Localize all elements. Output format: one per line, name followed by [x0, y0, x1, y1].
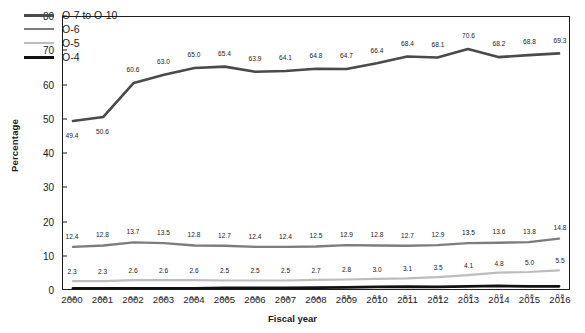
- legend-item-o-4[interactable]: O-4: [24, 50, 117, 64]
- y-axis-tick-mark: [62, 255, 67, 256]
- data-point-label: 3.5: [433, 264, 442, 271]
- data-point-label: 12.7: [218, 231, 231, 238]
- data-point-label: 2.6: [159, 267, 168, 274]
- y-axis-tick-label: 20: [43, 216, 54, 227]
- data-point-label: 2.5: [220, 267, 229, 274]
- data-point-label: 4.8: [494, 259, 503, 266]
- data-point-label: 0.2: [98, 294, 106, 301]
- x-axis-title: Fiscal year: [0, 313, 585, 324]
- data-point-label: 3.1: [403, 265, 412, 272]
- data-point-label: 0.8: [464, 292, 472, 299]
- series-line-o-4: [73, 286, 559, 288]
- data-point-label: 68.2: [493, 40, 506, 47]
- y-axis-tick-label: 10: [43, 250, 54, 261]
- y-axis-tick-mark: [62, 187, 67, 188]
- data-point-label: 12.8: [188, 231, 201, 238]
- y-axis-tick-mark: [62, 118, 67, 119]
- legend: O-7 to O-10O-6O-5O-4: [24, 8, 117, 64]
- data-point-label: 13.7: [127, 228, 140, 235]
- y-axis-tick-label: 0: [48, 285, 54, 296]
- data-point-label: 64.7: [340, 52, 353, 59]
- series-line-o-7-to-o-10: [73, 49, 559, 121]
- data-point-label: 60.6: [127, 66, 140, 73]
- data-point-label: 12.9: [432, 230, 445, 237]
- data-point-label: 2.7: [311, 266, 320, 273]
- data-point-label: 68.4: [401, 39, 414, 46]
- data-point-label: 0.9: [495, 291, 503, 298]
- data-point-label: 0.2: [129, 294, 137, 301]
- data-point-label: 5.0: [525, 258, 534, 265]
- data-point-label: 0.8: [556, 292, 564, 299]
- legend-item-o-6[interactable]: O-6: [24, 22, 117, 36]
- data-point-label: 12.5: [310, 232, 323, 239]
- y-axis-tick-label: 40: [43, 148, 54, 159]
- data-point-label: 2.3: [98, 268, 107, 275]
- data-point-label: 12.4: [66, 232, 79, 239]
- data-point-label: 0.2: [68, 294, 76, 301]
- data-point-label: 0.3: [281, 293, 289, 300]
- data-point-label: 12.9: [340, 230, 353, 237]
- data-point-label: 0.3: [220, 293, 228, 300]
- data-point-label: 50.6: [96, 127, 109, 134]
- y-axis-title: Percentage: [4, 0, 26, 290]
- data-point-label: 12.4: [279, 232, 292, 239]
- legend-swatch-icon: [24, 14, 54, 17]
- data-point-label: 3.0: [372, 265, 381, 272]
- legend-item-o-7-to-o-10[interactable]: O-7 to O-10: [24, 8, 117, 22]
- data-point-label: 14.8: [554, 224, 567, 231]
- legend-label: O-5: [62, 37, 80, 49]
- y-axis-tick-label: 60: [43, 79, 54, 90]
- y-axis-tick-mark: [62, 153, 67, 154]
- data-point-label: 12.8: [371, 231, 384, 238]
- legend-swatch-icon: [24, 42, 54, 44]
- data-point-label: 2.6: [189, 267, 198, 274]
- data-point-label: 0.6: [373, 292, 381, 299]
- data-point-label: 0.2: [190, 294, 198, 301]
- data-point-label: 70.6: [462, 32, 475, 39]
- data-point-label: 63.9: [249, 55, 262, 62]
- data-point-label: 0.4: [312, 293, 320, 300]
- data-point-label: 0.8: [525, 292, 533, 299]
- data-point-label: 13.5: [157, 228, 170, 235]
- data-point-label: 66.4: [371, 46, 384, 53]
- data-point-label: 12.4: [249, 232, 262, 239]
- data-point-label: 2.3: [67, 268, 76, 275]
- data-point-label: 12.7: [401, 231, 414, 238]
- data-point-label: 0.7: [403, 292, 411, 299]
- series-line-o-6: [73, 239, 559, 247]
- data-point-label: 2.5: [281, 267, 290, 274]
- data-point-label: 49.4: [66, 131, 79, 138]
- data-point-label: 13.6: [493, 228, 506, 235]
- y-axis-tick-label: 30: [43, 182, 54, 193]
- legend-label: O-6: [62, 23, 80, 35]
- data-point-label: 2.6: [128, 267, 137, 274]
- data-point-label: 12.8: [96, 231, 109, 238]
- data-point-label: 68.8: [523, 38, 536, 45]
- data-point-label: 0.2: [159, 294, 167, 301]
- legend-swatch-icon: [24, 28, 54, 30]
- legend-label: O-7 to O-10: [62, 9, 117, 21]
- data-point-label: 65.0: [188, 51, 201, 58]
- data-point-label: 13.5: [462, 228, 475, 235]
- y-axis-tick-label: 50: [43, 113, 54, 124]
- data-point-label: 4.1: [464, 261, 473, 268]
- legend-label: O-4: [62, 51, 80, 63]
- data-point-label: 68.1: [432, 40, 445, 47]
- data-point-label: 2.8: [342, 266, 351, 273]
- data-point-label: 13.8: [523, 227, 536, 234]
- legend-item-o-5[interactable]: O-5: [24, 36, 117, 50]
- y-axis-tick-mark: [62, 84, 67, 85]
- data-point-label: 0.3: [251, 293, 259, 300]
- data-point-label: 5.5: [555, 257, 564, 264]
- data-point-label: 63.0: [157, 58, 170, 65]
- legend-swatch-icon: [24, 56, 54, 59]
- data-point-label: 65.4: [218, 50, 231, 57]
- data-point-label: 64.1: [279, 54, 292, 61]
- data-point-label: 69.3: [554, 36, 567, 43]
- data-point-label: 0.5: [342, 293, 350, 300]
- y-axis-tick-mark: [62, 221, 67, 222]
- data-point-label: 0.6: [434, 292, 442, 299]
- data-point-label: 64.8: [310, 52, 323, 59]
- line-chart: Percentage 01020304050607080 20002001200…: [0, 0, 585, 333]
- data-point-label: 2.5: [250, 267, 259, 274]
